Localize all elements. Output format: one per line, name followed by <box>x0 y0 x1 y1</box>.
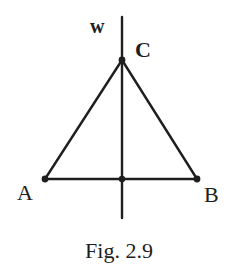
point-c <box>119 57 126 64</box>
point-midpoint <box>119 176 125 182</box>
point-b <box>194 176 201 183</box>
triangle-diagram <box>0 0 228 272</box>
figure-2-9: w C A B Fig. 2.9 <box>0 0 228 272</box>
point-a <box>42 176 49 183</box>
label-b: B <box>204 184 219 206</box>
segment-bc <box>122 60 197 179</box>
figure-caption: Fig. 2.9 <box>0 240 228 262</box>
label-w: w <box>90 16 104 36</box>
label-a: A <box>17 182 33 204</box>
label-c: C <box>135 39 151 61</box>
segment-ac <box>45 60 122 179</box>
